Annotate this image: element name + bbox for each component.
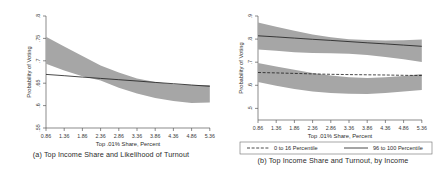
panel-b-xtick-6: 3.86 xyxy=(362,125,372,131)
panel-a-x-axis-title: Top .01% Share, Percent xyxy=(96,141,161,147)
panel-a-xtick-5: 3.36 xyxy=(132,133,142,139)
panel-b-xtick-8: 4.86 xyxy=(398,125,408,131)
panel-b-xtick-4: 2.86 xyxy=(326,125,336,131)
panel-b: .5 .6 .7 .8 .9 Probability of Voting xyxy=(222,0,444,176)
panel-a-xtick-6: 3.86 xyxy=(150,133,160,139)
panel-a-xtick-9: 5.36 xyxy=(205,133,215,139)
panel-a-caption: (a) Top Income Share and Likelihood of T… xyxy=(0,150,222,159)
legend-label-high: 96 to 100 Percentile xyxy=(373,145,423,151)
panel-b-ytick-4: .9 xyxy=(247,14,253,18)
panel-b-ci-band-high xyxy=(258,23,422,63)
panel-b-xtick-1: 1.36 xyxy=(271,125,281,131)
panel-b-y-ticks: .5 .6 .7 .8 .9 xyxy=(247,14,258,111)
panel-b-ytick-1: .6 xyxy=(247,83,253,87)
panel-b-caption: (b) Top Income Share and Turnout, by Inc… xyxy=(222,156,444,165)
panel-b-xtick-2: 1.86 xyxy=(289,125,299,131)
panel-b-legend: 0 to 16 Percentile 96 to 100 Percentile xyxy=(240,142,432,154)
legend-label-low: 0 to 16 Percentile xyxy=(274,145,318,151)
panel-a-xtick-7: 4.36 xyxy=(168,133,178,139)
panel-a-ytick-1: .6 xyxy=(35,103,41,107)
panel-a-xtick-8: 4.86 xyxy=(186,133,196,139)
panel-a-ytick-2: .65 xyxy=(35,79,41,86)
panel-b-plot: .5 .6 .7 .8 .9 Probability of Voting xyxy=(222,0,444,176)
panel-a-ytick-3: .7 xyxy=(35,59,41,63)
panel-a-y-axis-title: Probability of Voting xyxy=(26,46,32,97)
panel-a-xtick-0: 0.86 xyxy=(41,133,51,139)
panel-a-x-ticks: 0.86 1.36 1.86 2.36 2.86 3.36 3.86 4.36 … xyxy=(41,128,215,139)
panel-a-ytick-4: .75 xyxy=(35,35,41,42)
panel-b-y-axis-title: Probability of Voting xyxy=(238,42,244,93)
panel-a-y-ticks: .55 .6 .65 .7 .75 .8 xyxy=(35,14,46,132)
panel-b-xtick-5: 3.36 xyxy=(344,125,354,131)
panel-a-xtick-3: 2.36 xyxy=(95,133,105,139)
figure-two-panel-chart: .55 .6 .65 .7 .75 .8 Probability of Voti… xyxy=(0,0,444,176)
panel-b-ytick-2: .7 xyxy=(247,60,253,64)
panel-b-xtick-7: 4.36 xyxy=(380,125,390,131)
panel-b-x-ticks: 0.86 1.36 1.86 2.36 2.86 3.36 3.86 4.36 … xyxy=(253,120,427,131)
panel-a-ytick-0: .55 xyxy=(35,124,41,131)
panel-b-x-axis-title: Top .01% Share, Percent xyxy=(308,133,373,139)
panel-b-ytick-0: .5 xyxy=(247,106,253,110)
panel-b-xtick-0: 0.86 xyxy=(253,125,263,131)
panel-a-ci-band xyxy=(46,37,210,103)
panel-a-ytick-5: .8 xyxy=(35,14,41,18)
panel-a-xtick-2: 1.86 xyxy=(77,133,87,139)
panel-a-xtick-4: 2.86 xyxy=(114,133,124,139)
panel-a: .55 .6 .65 .7 .75 .8 Probability of Voti… xyxy=(0,0,222,176)
panel-b-ci-band-low xyxy=(258,63,422,94)
panel-b-xtick-3: 2.36 xyxy=(307,125,317,131)
panel-a-xtick-1: 1.36 xyxy=(59,133,69,139)
panel-b-ytick-3: .8 xyxy=(247,37,253,41)
panel-b-xtick-9: 5.36 xyxy=(417,125,427,131)
